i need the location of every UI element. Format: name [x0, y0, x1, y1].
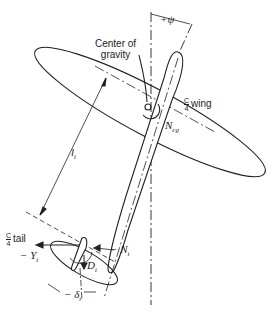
drag-tail-label: Dt [87, 260, 97, 276]
yaw-moment-tail-label: − Nt [110, 244, 129, 260]
cg-leader [139, 55, 147, 102]
quarter-chord-wing-label: C4wing [184, 97, 212, 112]
tail-arm-label: lt [71, 147, 76, 163]
yaw-moment-cg-label: Ncg [165, 120, 179, 136]
cg-marker [145, 104, 151, 110]
side-force-tail-label: − Yt [20, 250, 38, 266]
center-of-gravity-label: Center of gravity [95, 38, 136, 60]
yaw-angle-label: +ψ [160, 14, 174, 25]
rudder-deflection-label: − δr [64, 289, 82, 305]
airplane-yaw-diagram [0, 0, 274, 318]
quarter-chord-tail-label: C4tail [6, 232, 26, 247]
tail-quarter-chord-line [26, 212, 115, 262]
